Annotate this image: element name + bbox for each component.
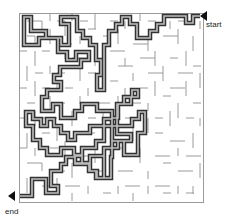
start-label: start [206,20,222,29]
maze-board [0,0,232,219]
end-label: end [5,207,18,216]
solution-path [20,16,200,196]
end-arrow-icon [8,191,15,201]
